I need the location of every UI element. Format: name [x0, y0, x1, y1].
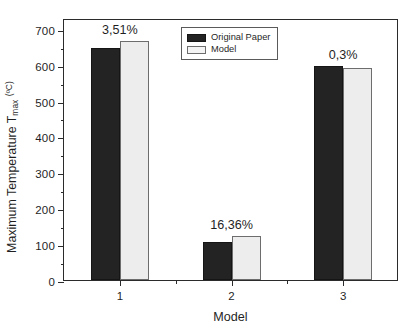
y-axis-tick: [58, 31, 64, 32]
percent-annotation-1: 3,51%: [102, 23, 138, 37]
y-axis-tick-label: 500: [35, 97, 55, 109]
y-axis-minor-tick: [61, 156, 65, 157]
bar-original-paper-2: [203, 242, 232, 280]
y-axis-tick-label: 300: [35, 168, 55, 180]
legend-label: Model: [211, 45, 236, 54]
plot-area: 0100200300400500600700123 3,51%16,36%0,3…: [63, 19, 398, 281]
y-axis-minor-tick: [61, 264, 65, 265]
y-axis-minor-tick: [61, 49, 65, 50]
chart-legend: Original PaperModel: [181, 27, 278, 60]
x-axis-minor-tick: [287, 280, 288, 284]
bar-original-paper-3: [314, 66, 343, 280]
y-axis-minor-tick: [61, 228, 65, 229]
y-axis-minor-tick: [61, 192, 65, 193]
y-axis-tick-label: 0: [48, 276, 55, 288]
y-axis-tick: [58, 103, 64, 104]
x-axis-minor-tick: [176, 280, 177, 284]
legend-label: Original Paper: [211, 33, 270, 42]
bar-model-3: [343, 68, 372, 280]
y-axis-title-subscript: max: [10, 100, 20, 116]
y-axis-tick-label: 600: [35, 61, 55, 73]
y-axis-tick: [58, 138, 64, 139]
legend-item: Original Paper: [187, 32, 270, 43]
x-axis-tick: [343, 280, 344, 286]
x-axis-tick-label: 3: [340, 290, 346, 302]
y-axis-tick: [58, 67, 64, 68]
bar-model-2: [232, 236, 261, 280]
y-axis-tick: [58, 210, 64, 211]
x-axis-tick-label: 1: [117, 290, 123, 302]
y-axis-title-units: (ºC): [4, 81, 14, 96]
bar-chart-figure: Maximum Temperature Tmax (ºC) 0100200300…: [0, 0, 414, 334]
y-axis-tick: [58, 282, 64, 283]
percent-annotation-2: 16,36%: [210, 218, 253, 232]
legend-swatch-dark: [187, 34, 206, 42]
x-axis-tick: [120, 280, 121, 286]
y-axis-tick: [58, 246, 64, 247]
y-axis-minor-tick: [61, 85, 65, 86]
y-axis-tick-label: 400: [35, 132, 55, 144]
y-axis-tick-label: 200: [35, 204, 55, 216]
bar-original-paper-1: [91, 48, 120, 280]
y-axis-tick-label: 700: [35, 25, 55, 37]
y-axis-title-main: Maximum Temperature T: [5, 116, 19, 253]
x-axis-tick-label: 2: [228, 290, 234, 302]
y-axis-title: Maximum Temperature Tmax (ºC): [4, 51, 20, 283]
legend-item: Model: [187, 44, 270, 55]
x-axis-tick: [232, 280, 233, 286]
legend-swatch-light: [187, 46, 206, 54]
y-axis-tick-label: 100: [35, 240, 55, 252]
x-axis-title: Model: [63, 310, 398, 324]
y-axis-minor-tick: [61, 120, 65, 121]
percent-annotation-3: 0,3%: [329, 48, 358, 62]
bar-model-1: [120, 41, 149, 280]
y-axis-tick: [58, 174, 64, 175]
